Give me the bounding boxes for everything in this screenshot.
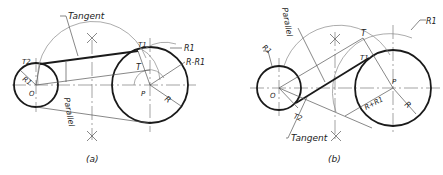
- t-label-b: T: [361, 29, 367, 38]
- r-minus-r1-leader-a: [150, 62, 185, 85]
- t1-label-b: T1: [360, 54, 369, 62]
- p-label-a: P: [141, 90, 146, 98]
- t-label-a: T: [136, 63, 142, 72]
- r-plus-r1-label-b: R+R1: [363, 95, 384, 111]
- radius-r-line-b: [393, 88, 416, 114]
- caption-b: (b): [328, 154, 341, 164]
- t2-label-b: T2: [292, 112, 303, 123]
- t1-label-a: T1: [138, 41, 147, 49]
- r1-label-a: R1: [184, 44, 195, 53]
- o-label-b: O: [270, 92, 276, 100]
- parallel-label-a: Parallel: [62, 97, 76, 128]
- p-to-t-line-b: [363, 38, 393, 88]
- r1-label-b: R1: [426, 17, 437, 26]
- r-minus-r1-label-a: R-R1: [186, 58, 205, 67]
- bisector-mark-bottom-b: [331, 131, 341, 141]
- tangent-label-a: Tangent: [68, 11, 105, 21]
- o-to-t-line-b: [279, 38, 363, 88]
- tangent-leader-a: [60, 16, 78, 56]
- o-label-a: O: [29, 90, 35, 98]
- figure-b: Parallel Tangent T2 T1 T R1 R1 R+R1 R O …: [250, 7, 440, 164]
- tangent-label-b: Tangent: [291, 133, 328, 143]
- diagram-canvas: Tangent Parallel T2 T1 T R1 R1 R-R1 R O …: [0, 0, 443, 175]
- caption-a: (a): [86, 154, 99, 164]
- figure-a: Tangent Parallel T2 T1 T R1 R1 R-R1 R O …: [12, 11, 205, 164]
- o-to-t2-line-b: [279, 88, 298, 108]
- t2-label-a: T2: [22, 58, 31, 66]
- r1-outer-label-b: R1: [261, 43, 273, 55]
- r1-leader-b: [411, 20, 426, 30]
- parallel-label-b: Parallel: [280, 7, 294, 38]
- p-label-b: P: [392, 78, 397, 86]
